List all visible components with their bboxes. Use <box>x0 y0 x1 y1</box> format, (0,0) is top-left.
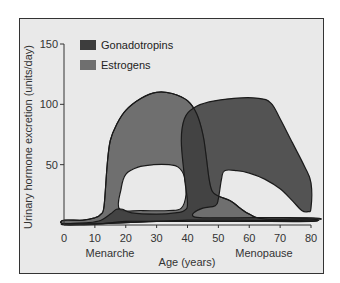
y-axis-title: Urinary hormone excretion (units/day) <box>22 45 34 229</box>
x-tick-label: 40 <box>181 232 193 244</box>
x-tick-label: 80 <box>305 232 317 244</box>
y-tick-label: 50 <box>46 159 58 171</box>
x-tick-label: 30 <box>151 232 163 244</box>
x-tick-label: 0 <box>61 232 67 244</box>
x-tick-label: 20 <box>120 232 132 244</box>
x-tick-label: 10 <box>89 232 101 244</box>
legend-swatch-estrogens <box>80 60 96 70</box>
legend-label-gonadotropins: Gonadotropins <box>101 39 174 51</box>
annotation-menarche: Menarche <box>86 247 135 259</box>
hormone-chart: 0102030405060708050100150 Gonadotropins … <box>0 0 340 283</box>
legend-swatch-gonadotropins <box>80 40 96 50</box>
annotation-menopause: Menopause <box>235 247 293 259</box>
x-tick-label: 70 <box>274 232 286 244</box>
y-tick-label: 100 <box>40 98 58 110</box>
x-tick-label: 60 <box>243 232 255 244</box>
x-axis-title: Age (years) <box>159 256 216 268</box>
y-tick-label: 150 <box>40 38 58 50</box>
x-tick-label: 50 <box>212 232 224 244</box>
legend-label-estrogens: Estrogens <box>101 59 151 71</box>
